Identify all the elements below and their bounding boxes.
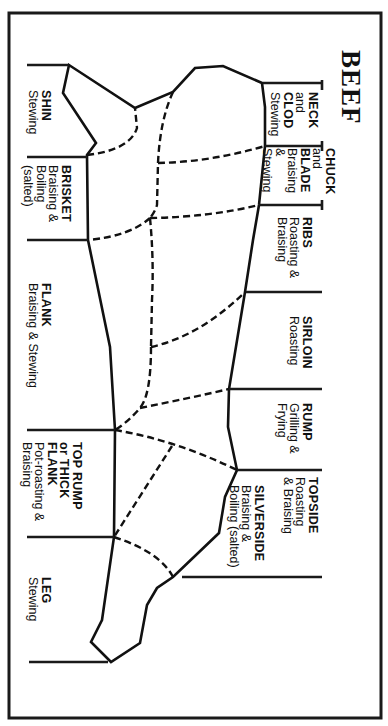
cut-label-topside: TOPSIDE Roasting & Braising	[282, 477, 320, 534]
diagram-title: BEEF	[335, 50, 366, 125]
cut-label-neck: NECK and CLOD Stewing	[269, 92, 319, 136]
cut-label-flank: FLANK Braising & Stewing	[27, 283, 52, 388]
cut-label-sirloin: SIRLOIN Roasting	[288, 316, 313, 369]
cut-label-brisket: BRISKET Braising & Boiling (salted)	[22, 165, 72, 222]
beef-cuts-diagram	[0, 0, 388, 726]
cut-label-top-rump: TOP RUMP or THICK FLANK Pot-roasting & B…	[21, 442, 84, 521]
cut-label-leg: LEG Stewing	[27, 577, 52, 621]
cut-label-rump: RUMP Grilling & Frying	[276, 403, 314, 454]
diagram-frame	[9, 13, 381, 718]
cut-label-ribs: RIBS Roasting & Braising	[276, 217, 314, 278]
cut-label-shin: SHIN Stewing	[27, 90, 52, 134]
cut-label-chuck: CHUCK and BLADE Braising & Stewing	[261, 148, 336, 195]
cut-label-silverside: SILVERSIDE Braising & Boiling (salted)	[228, 485, 266, 568]
